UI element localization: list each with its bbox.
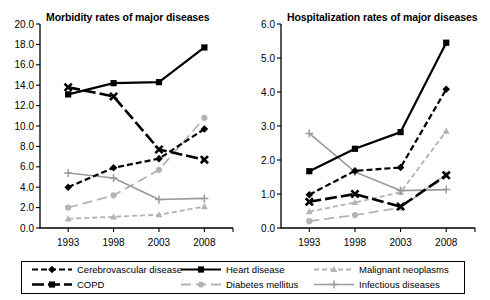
- y-tick-label: 20.0: [15, 19, 35, 30]
- y-tick-label: 4.0: [20, 182, 34, 193]
- legend-label: Heart disease: [226, 262, 285, 277]
- data-point-square: [65, 91, 71, 97]
- legend-item: Cerebrovascular disease: [30, 262, 182, 277]
- data-point-plus: [110, 174, 118, 182]
- plot-area-hospitalization: 0.01.02.03.04.05.06.01993199820032008: [245, 0, 490, 255]
- legend-label: Malignant neoplasms: [359, 262, 449, 277]
- data-point-circle: [65, 205, 71, 211]
- x-tick-label: 1998: [102, 237, 125, 248]
- y-tick-label: 2.0: [261, 155, 275, 166]
- y-tick-label: 6.0: [261, 19, 275, 30]
- x-tick-label: 1993: [57, 237, 80, 248]
- data-point-square: [198, 266, 204, 272]
- y-tick-label: 8.0: [20, 141, 34, 152]
- legend-key-circle-icon: [179, 277, 223, 292]
- chart-panel-morbidity: Morbidity rates of major diseases 0.02.0…: [0, 0, 245, 255]
- legend-item: Malignant neoplasms: [312, 262, 449, 277]
- x-tick-label: 1993: [298, 237, 321, 248]
- data-point-plus: [64, 169, 72, 177]
- y-tick-label: 1.0: [261, 189, 275, 200]
- data-point-square: [352, 146, 358, 152]
- series-line: [68, 129, 204, 187]
- data-point-plus: [155, 195, 163, 203]
- legend-key-square-icon: [30, 277, 74, 292]
- legend-row: COPDDiabetes mellitusInfectious diseases: [22, 277, 464, 292]
- data-point-triangle: [201, 203, 208, 209]
- y-tick-label: 16.0: [15, 59, 35, 70]
- legend-item: Diabetes mellitus: [179, 277, 298, 292]
- legend-key-diamond-icon: [30, 262, 74, 277]
- series-line: [309, 89, 446, 194]
- y-tick-label: 0.0: [261, 223, 275, 234]
- y-tick-label: 5.0: [261, 53, 275, 64]
- data-point-circle: [352, 212, 358, 218]
- data-point-circle: [306, 218, 312, 224]
- y-tick-label: 3.0: [261, 121, 275, 132]
- y-tick-label: 6.0: [20, 161, 34, 172]
- y-tick-label: 18.0: [15, 39, 35, 50]
- data-point-square: [110, 80, 116, 86]
- x-tick-label: 1998: [344, 237, 367, 248]
- legend-row: Cerebrovascular diseaseHeart diseaseMali…: [22, 262, 464, 277]
- data-point-square: [443, 40, 449, 46]
- legend-item: Heart disease: [179, 262, 285, 277]
- data-point-square: [49, 281, 55, 287]
- chart-figure: Morbidity rates of major diseases 0.02.0…: [0, 0, 490, 300]
- data-point-diamond: [48, 266, 56, 274]
- x-tick-label: 2003: [389, 237, 412, 248]
- series-line: [309, 43, 446, 172]
- legend-label: COPD: [77, 277, 104, 292]
- y-tick-label: 14.0: [15, 80, 35, 91]
- series-line: [68, 207, 204, 219]
- legend-key-triangle-icon: [312, 262, 356, 277]
- series-line: [68, 47, 204, 94]
- x-tick-label: 2003: [148, 237, 171, 248]
- legend-label: Diabetes mellitus: [226, 277, 298, 292]
- legend-label: Infectious diseases: [359, 277, 440, 292]
- data-point-diamond: [110, 164, 118, 172]
- data-point-circle: [110, 192, 116, 198]
- plot-area-morbidity: 0.02.04.06.08.010.012.014.016.018.020.01…: [0, 0, 245, 255]
- data-point-square: [156, 79, 162, 85]
- data-point-circle: [156, 167, 162, 173]
- chart-legend: Cerebrovascular diseaseHeart diseaseMali…: [21, 261, 465, 294]
- y-tick-label: 12.0: [15, 100, 35, 111]
- series-line: [309, 175, 446, 206]
- x-tick-label: 2008: [193, 237, 216, 248]
- data-point-triangle: [443, 128, 450, 134]
- y-tick-label: 0.0: [20, 223, 34, 234]
- y-tick-label: 10.0: [15, 121, 35, 132]
- legend-item: Infectious diseases: [312, 277, 440, 292]
- y-tick-label: 4.0: [261, 87, 275, 98]
- legend-item: COPD: [30, 277, 104, 292]
- legend-key-plus-icon: [312, 277, 356, 292]
- data-point-square: [306, 168, 312, 174]
- chart-panel-hospitalization: Hospitalization rates of major diseases …: [245, 0, 490, 255]
- legend-key-square-icon: [179, 262, 223, 277]
- data-point-plus: [330, 281, 338, 289]
- y-tick-label: 2.0: [20, 202, 34, 213]
- data-point-square: [397, 129, 403, 135]
- series-line: [68, 87, 204, 159]
- data-point-circle: [201, 115, 207, 121]
- data-point-plus: [442, 186, 450, 194]
- series-line: [68, 173, 204, 200]
- data-point-plus: [200, 194, 208, 202]
- data-point-diamond: [64, 183, 72, 191]
- data-point-circle: [198, 281, 204, 287]
- legend-label: Cerebrovascular disease: [77, 262, 182, 277]
- data-point-square: [201, 44, 207, 50]
- x-tick-label: 2008: [435, 237, 458, 248]
